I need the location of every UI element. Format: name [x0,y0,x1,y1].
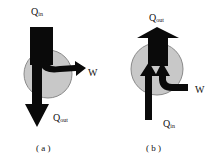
panel-a-work-label: W [88,67,98,78]
panel-b-qout-label: Qout [149,12,164,23]
panel-b-caption: ( b ) [146,143,161,153]
panel-b: Qout W Qin ( b ) [131,12,205,153]
panel-b-qin-label: Qin [163,118,175,129]
panel-a-qin-label: Qin [31,6,43,17]
panel-a-qout-label: Qout [53,112,68,123]
panel-a-caption: ( a ) [36,143,51,153]
panel-a: Qin W Qout ( a ) [24,6,98,153]
panel-b-work-label: W [195,84,205,95]
heat-engine-diagram: Qin W Qout ( a ) Qout W Qin ( b ) [0,0,215,160]
